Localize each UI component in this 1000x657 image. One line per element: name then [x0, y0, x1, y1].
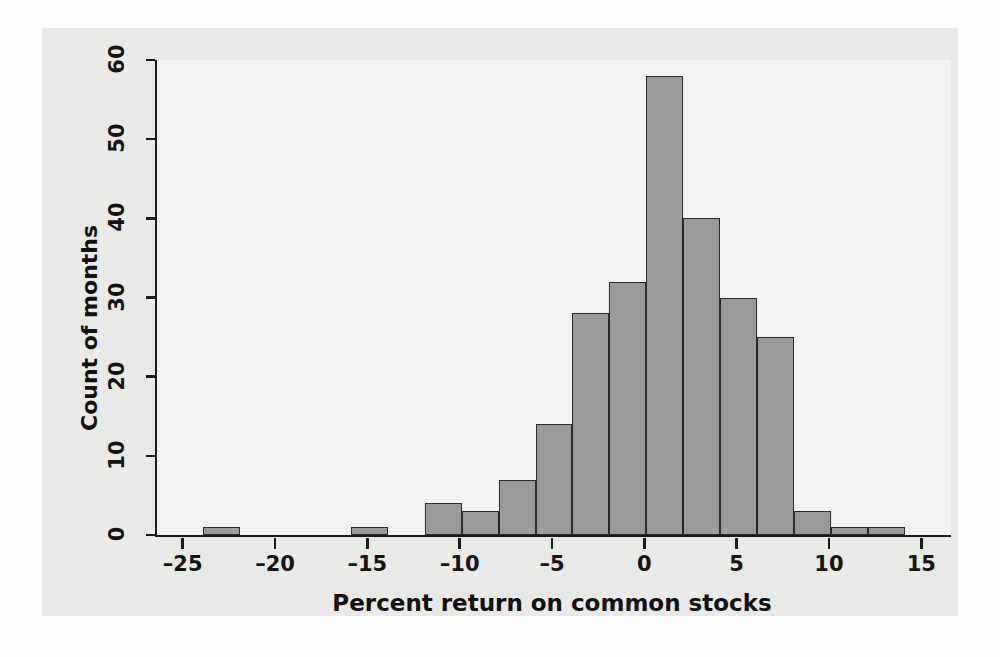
x-tick-mark: [366, 538, 369, 549]
x-tick-label: 5: [707, 552, 767, 576]
x-tick-label: –15: [337, 552, 397, 576]
x-axis-title: Percent return on common stocks: [155, 590, 949, 616]
histogram-bar: [868, 527, 905, 535]
x-tick-mark: [920, 538, 923, 549]
histogram-bar: [425, 503, 462, 535]
histogram-bar: [351, 527, 388, 535]
histogram-bar: [536, 424, 573, 535]
x-tick-mark: [458, 538, 461, 549]
plot-area: [155, 60, 951, 537]
y-tick-mark: [146, 217, 155, 220]
y-tick-label: 40: [105, 197, 129, 237]
y-tick-mark: [146, 59, 155, 62]
x-tick-label: –20: [245, 552, 305, 576]
x-tick-label: 0: [614, 552, 674, 576]
histogram-bar: [720, 298, 757, 536]
x-tick-label: –25: [153, 552, 213, 576]
histogram-bar: [572, 313, 609, 535]
histogram-bar: [683, 218, 720, 535]
y-tick-label: 60: [105, 39, 129, 79]
x-tick-mark: [643, 538, 646, 549]
x-tick-label: 10: [799, 552, 859, 576]
histogram-bar: [757, 337, 794, 535]
histogram-bar: [794, 511, 831, 535]
chart-panel: Count of months 0102030405060 –25–20–15–…: [42, 28, 958, 616]
y-tick-label: 0: [105, 514, 129, 554]
y-tick-mark: [146, 138, 155, 141]
histogram-bar: [203, 527, 240, 535]
x-tick-label: 15: [891, 552, 951, 576]
x-tick-mark: [274, 538, 277, 549]
histogram-figure: Count of months 0102030405060 –25–20–15–…: [0, 0, 1000, 657]
histogram-bars: [157, 60, 951, 535]
y-tick-mark: [146, 375, 155, 378]
histogram-bar: [609, 282, 646, 535]
y-tick-mark: [146, 534, 155, 537]
x-tick-label: –10: [430, 552, 490, 576]
y-axis-title: Count of months: [77, 224, 102, 430]
y-tick-label: 30: [105, 277, 129, 317]
y-tick-label: 10: [105, 435, 129, 475]
histogram-bar: [646, 76, 683, 535]
x-tick-mark: [551, 538, 554, 549]
x-tick-mark: [735, 538, 738, 549]
histogram-bar: [831, 527, 868, 535]
y-tick-label: 20: [105, 356, 129, 396]
histogram-bar: [462, 511, 499, 535]
y-tick-mark: [146, 455, 155, 458]
x-tick-label: –5: [522, 552, 582, 576]
histogram-bar: [499, 480, 536, 535]
x-tick-mark: [181, 538, 184, 549]
y-tick-mark: [146, 296, 155, 299]
x-tick-mark: [828, 538, 831, 549]
y-tick-label: 50: [105, 118, 129, 158]
